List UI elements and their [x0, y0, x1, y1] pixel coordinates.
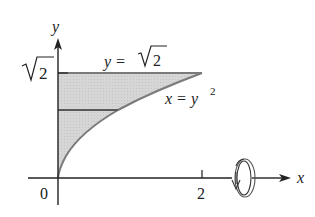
svg-text:2: 2 — [39, 64, 48, 83]
rotation-arrow-icon — [232, 159, 255, 197]
svg-text:y =: y = — [102, 53, 126, 71]
line-label: y = 2 — [102, 46, 167, 71]
radical-sign-icon — [22, 57, 54, 80]
svg-text:2: 2 — [210, 85, 216, 97]
y-tick-label-sqrt2: 2 — [22, 57, 54, 83]
shaded-region — [58, 73, 202, 178]
svg-text:x = y: x = y — [164, 90, 199, 108]
parabola-label: x = y 2 — [164, 85, 216, 108]
y-axis-label: y — [50, 18, 60, 36]
origin-label: 0 — [40, 185, 48, 202]
diagram-canvas: y x 0 2 2 y = 2 x = y 2 — [0, 0, 315, 217]
x-axis-label: x — [296, 169, 304, 186]
x-tick-label-2: 2 — [197, 185, 205, 202]
svg-text:2: 2 — [153, 52, 161, 69]
